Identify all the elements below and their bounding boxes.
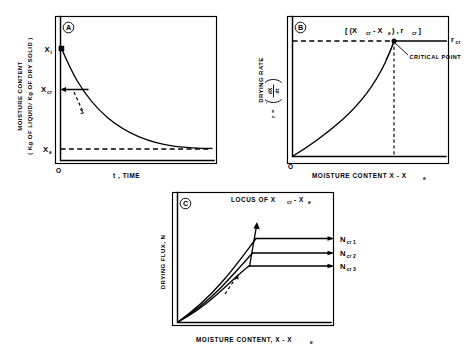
panel-b-top-annotation: [ (X cr - X e ) , r cr ] [345,26,422,36]
panel-a-initial-point-marker [59,46,65,51]
panel-a-tag: A [63,22,74,33]
panel-c-y-axis-label: DRYING FLUX, N [160,235,166,289]
panel-b-origin-label: O [288,163,293,170]
panel-b: B CRITICAL POINT [ (X cr - X [258,17,462,181]
panel-a-tangent-line [74,92,84,113]
panel-b-critical-point-label: CRITICAL POINT [410,54,462,60]
panel-b-rcr-base: r [451,35,454,44]
panel-b-x-axis-label-main: MOISTURE CONTENT X - X [312,172,407,179]
panel-c-x-axis-label-main: MOISTURE CONTENT, X - X [196,336,292,344]
panel-c-locus-label-main: LOCUS OF X [231,196,276,203]
panel-c-tag: C [180,198,191,209]
panel-b-y-axis-label-line2: r = [270,109,276,118]
panel-c-locus-label: LOCUS OF X cr - X e [231,196,311,205]
panel-b-fraction-sign: - [263,102,269,104]
panel-a-y-axis-label-line2: ( Kg OF LIQUID/ Kg OF DRY SOLID ) [27,37,33,155]
panel-c-ncr3-sub: cr 3 [347,266,356,272]
panel-b-rcr-sub: cr [456,39,461,45]
panel-c: C LOCUS OF X [160,193,356,345]
panel-c-curve-1 [178,239,256,323]
panel-a-x-axis-label: t , TIME [113,172,140,180]
panel-b-critical-point-leader-2 [386,44,394,61]
panel-b-tag-label: B [298,23,303,32]
panel-b-annotation-sub3: cr [412,31,417,36]
panel-c-frame [173,193,334,326]
panel-c-label-ncr2: N cr 2 [340,249,356,259]
panel-b-paren-right [265,80,282,83]
panel-c-locus-arrowhead [253,222,259,229]
panel-a-xcr-sub: cr [47,89,52,95]
panel-a-xi-base: X [45,45,50,54]
panel-c-curve-2 [178,253,253,322]
panel-b-critical-point-leader-1 [395,43,409,56]
panel-c-locus-label-sub2: e [308,199,311,205]
panel-b-tag: B [295,22,306,33]
panel-b-paren-left [265,100,282,103]
panel-b-fraction-numerator: dX [267,87,273,94]
panel-a-drying-curve [62,49,213,149]
panel-a-xe-sub: e [49,149,52,155]
panel-c-ncr1-base: N [340,235,346,244]
panel-b-annotation-sub1: cr [366,31,371,36]
panel-b-fraction-denominator: dt [274,88,280,93]
panel-a-xcr-arrowhead [61,87,67,92]
panel-a-xi-sub: i [51,49,53,55]
panel-c-x-axis-label-sub: e [310,339,313,345]
drying-curves-figure: A X i X cr [0,0,473,363]
panel-a-origin-label: O [56,167,61,174]
panel-c-locus-label-sub1: cr [287,199,292,205]
panel-a-label-xe: X e [43,145,52,155]
panel-a-axes [61,17,215,161]
panel-c-ncr2-base: N [340,249,346,258]
panel-b-frame [288,17,449,164]
figure-root: A X i X cr [0,0,473,363]
panel-b-rcr-label: r cr [451,35,460,45]
panel-a-xcr-base: X [41,85,46,94]
panel-a-label-xcr: X cr [41,85,52,95]
panel-b-axes [293,17,447,157]
panel-c-x-axis-label: MOISTURE CONTENT, X - X e [196,336,313,345]
panel-c-label-ncr1: N cr 1 [340,235,356,245]
panel-b-annotation-sub2: e [388,31,391,36]
panel-b-y-axis-label-line1: DRYING RATE [258,57,264,103]
panel-c-label-ncr3: N cr 3 [340,262,356,272]
panel-b-annotation-mid: - X [373,26,383,35]
panel-c-locus-label-mid: - X [294,196,304,203]
panel-a-label-xi: X i [45,45,53,55]
panel-b-x-axis-label-sub: e [423,175,426,181]
panel-a-y-axis-label-line1: MOISTURE CONTENT [17,61,23,131]
panel-b-annotation-close2: ] [419,26,422,35]
panel-a-tag-label: A [66,23,71,32]
panel-c-tag-label: C [183,199,188,208]
panel-c-ncr2-sub: cr 2 [347,253,356,259]
panel-b-critical-point-marker [392,39,397,44]
panel-b-y-axis-fraction: r = - dX dt [263,80,282,119]
panel-c-ncr1-sub: cr 1 [347,239,356,245]
panel-b-x-axis-label: MOISTURE CONTENT X - X e [312,172,426,181]
panel-a: A X i X cr [17,17,217,180]
panel-b-annotation-open: [ (X [345,26,357,35]
panel-b-drying-rate-curve [293,41,394,156]
panel-a-xe-base: X [43,145,48,154]
panel-b-annotation-close1: ) , r [392,26,404,35]
panel-c-ncr3-base: N [340,262,346,271]
